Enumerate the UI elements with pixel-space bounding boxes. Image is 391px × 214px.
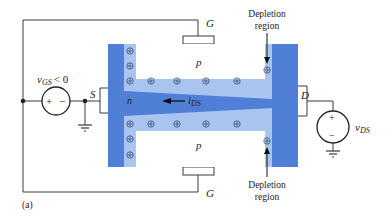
ground-icon [78, 125, 92, 131]
drain-label: D [300, 89, 309, 101]
n-channel-label: n [127, 95, 132, 106]
vgs-subscript: GS [42, 78, 52, 87]
ground-icon [326, 151, 340, 157]
source-label: S [90, 88, 96, 100]
vds-subscript: DS [359, 126, 370, 135]
vds-minus-sign: − [329, 130, 335, 141]
depletion-top-line1: Depletion [248, 9, 286, 19]
figure-label: (a) [22, 200, 33, 211]
vgs-label: vGS< 0 [37, 73, 69, 87]
gate-top-label: G [206, 17, 214, 29]
vgs-plus-sign: + [46, 95, 52, 107]
p-bottom-label: p [195, 139, 202, 151]
vgs-minus-sign: − [59, 95, 65, 107]
depletion-bottom-line1: Depletion [248, 180, 286, 190]
ids-subscript: DS [190, 99, 201, 108]
depletion-bottom-line2: region [255, 192, 280, 202]
vds-plus-sign: + [329, 112, 335, 123]
depletion-top-line2: region [255, 21, 280, 31]
p-top-label: p [195, 56, 202, 68]
vds-label: vDS [355, 121, 370, 135]
jfet-body [108, 44, 298, 167]
vgs-condition: < 0 [54, 73, 69, 85]
node-dot-left [21, 99, 26, 104]
node-dot-source [83, 99, 88, 104]
gate-bottom-label: G [206, 187, 214, 199]
jfet-diagram: + − + − G G S D p p n iDS vGS< 0 vDS Dep… [0, 0, 391, 214]
